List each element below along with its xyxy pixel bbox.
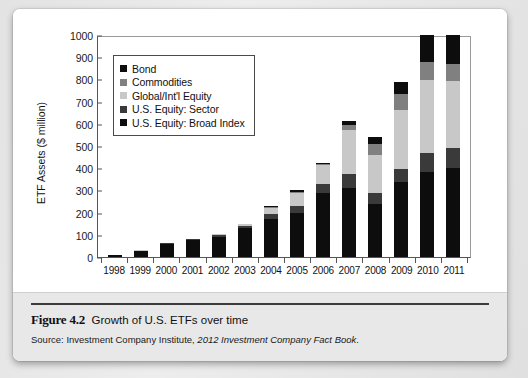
y-tick-label: 600 [76,119,93,131]
x-tick-mark [362,258,363,263]
bar-segment [368,204,382,257]
figure-title: Growth of U.S. ETFs over time [91,314,248,326]
bar-slot [284,37,310,257]
y-tick-mark [97,191,102,192]
bar-segment [368,155,382,193]
bar-segment [290,193,304,207]
bar-slot [362,37,388,257]
legend-item[interactable]: U.S. Equity: Sector [120,103,245,115]
bar-segment [420,172,434,257]
chart-area: ETF Assets ($ million) 01002003004005006… [13,9,507,292]
stacked-bar[interactable] [394,82,408,257]
y-axis-title: ETF Assets ($ million) [35,53,47,253]
stacked-bar[interactable] [342,121,356,257]
bar-segment [446,148,460,169]
y-tick-label: 500 [76,141,93,153]
y-tick-label: 0 [87,252,93,264]
x-tick-label: 2000 [156,265,177,276]
bar-segment [238,228,252,257]
bar-segment [394,94,408,110]
bar-segment [446,64,460,81]
stacked-bar[interactable] [446,35,460,257]
stacked-bar[interactable] [368,137,382,257]
y-tick-label: 1000 [70,30,93,42]
stacked-bar[interactable] [290,190,304,257]
legend-label: U.S. Equity: Sector [132,103,219,115]
figure-number: Figure 4.2 [31,312,85,327]
bar-segment [394,169,408,182]
bar-segment [290,213,304,257]
figure-source: Source: Investment Company Institute, 20… [31,334,359,345]
x-tick-mark [127,258,128,263]
x-tick-mark [467,258,468,263]
bar-segment [264,219,278,257]
x-tick-label: 2011 [444,265,465,276]
y-tick-label: 400 [76,163,93,175]
x-tick-label: 2001 [182,265,203,276]
bar-segment [446,168,460,257]
y-tick-mark [97,58,102,59]
x-tick-label: 2007 [339,265,360,276]
x-tick-mark [415,258,416,263]
y-tick-label: 700 [76,97,93,109]
bar-segment [394,110,408,169]
x-tick-label: 2003 [234,265,255,276]
legend-item[interactable]: Commodities [120,76,245,88]
stacked-bar[interactable] [264,206,278,257]
bar-segment [368,144,382,155]
bar-segment [212,237,226,257]
bar-slot [258,37,284,257]
legend-swatch-icon [120,79,127,86]
chart-legend: BondCommoditiesGlobal/Int'l EquityU.S. E… [113,55,255,136]
bar-segment [134,251,148,257]
y-tick-mark [97,102,102,103]
legend-swatch-icon [120,92,127,99]
y-tick-mark [97,80,102,81]
x-tick-label: 2008 [365,265,386,276]
legend-item[interactable]: U.S. Equity: Broad Index [120,117,245,129]
bar-segment [186,240,200,257]
legend-swatch-icon [120,119,127,126]
bar-slot [336,37,362,257]
y-tick-label: 300 [76,185,93,197]
stacked-bar[interactable] [160,243,174,257]
y-tick-label: 800 [76,74,93,86]
y-tick-mark [97,36,102,37]
x-tick-label: 1998 [103,265,124,276]
bar-segment [420,80,434,153]
x-tick-label: 2005 [286,265,307,276]
source-publication: 2012 Investment Company Fact Book [197,334,356,345]
stacked-bar[interactable] [134,250,148,257]
x-tick-mark [389,258,390,263]
bar-segment [368,193,382,204]
figure-card: ETF Assets ($ million) 01002003004005006… [13,9,507,361]
legend-item[interactable]: Bond [120,63,245,75]
x-tick-label: 2002 [208,265,229,276]
bar-segment [446,81,460,148]
bar-segment [368,137,382,144]
legend-label: Bond [132,63,156,75]
y-tick-mark [97,213,102,214]
stacked-bar[interactable] [212,234,226,257]
x-tick-label: 2006 [312,265,333,276]
stacked-bar[interactable] [186,239,200,257]
x-tick-mark [232,258,233,263]
stacked-bar[interactable] [420,35,434,257]
x-tick-label: 1999 [129,265,150,276]
figure-caption: Figure 4.2 Growth of U.S. ETFs over time [31,312,248,328]
stacked-bar[interactable] [108,255,122,257]
x-tick-mark [336,258,337,263]
bar-segment [316,165,330,184]
legend-item[interactable]: Global/Int'l Equity [120,90,245,102]
legend-swatch-icon [120,65,127,72]
x-tick-mark [179,258,180,263]
bar-segment [160,244,174,257]
stacked-bar[interactable] [316,163,330,257]
caption-divider [31,303,489,305]
bar-segment [446,35,460,64]
bar-segment [342,174,356,188]
bar-slot [310,37,336,257]
y-tick-label: 100 [76,230,93,242]
y-tick-mark [97,258,102,259]
stacked-bar[interactable] [238,224,252,257]
